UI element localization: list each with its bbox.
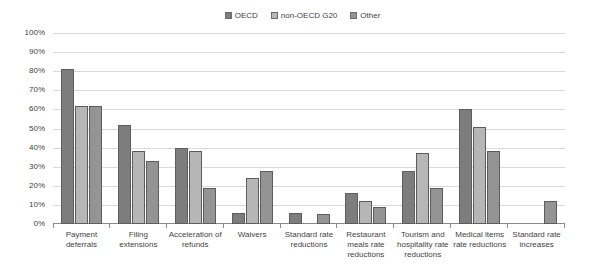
bar[interactable]: [75, 106, 88, 224]
chart-legend: OECDnon-OECD G20Other: [0, 11, 605, 20]
x-axis-category-label: Tourism and hospitality rate reductions: [394, 230, 451, 260]
bar[interactable]: [544, 201, 557, 224]
bar[interactable]: [473, 127, 486, 224]
bar[interactable]: [260, 171, 273, 224]
bar[interactable]: [132, 151, 145, 224]
y-axis-tick-label: 100%: [25, 29, 45, 37]
legend-label: non-OECD G20: [281, 11, 337, 20]
y-axis-labels: 100%90%80%70%60%50%40%30%20%10%0%: [0, 33, 50, 224]
bar[interactable]: [232, 213, 245, 224]
legend-entry-oecd[interactable]: OECD: [225, 11, 258, 20]
bar[interactable]: [402, 171, 415, 224]
bar-group: [451, 33, 508, 224]
y-axis-tick-label: 90%: [29, 48, 45, 56]
legend-swatch-icon: [350, 12, 357, 19]
legend-swatch-icon: [225, 12, 232, 19]
bar-group: [167, 33, 224, 224]
legend-entry-non-oecd-g20[interactable]: non-OECD G20: [271, 11, 337, 20]
x-axis-tick: [394, 224, 451, 228]
x-axis-category-label: Acceleration of refunds: [167, 230, 224, 260]
x-axis-category-label: Standard rate reductions: [281, 230, 338, 260]
bar-groups: [53, 33, 565, 224]
x-axis-tick: [53, 224, 110, 228]
y-axis-tick-label: 50%: [29, 125, 45, 133]
bar[interactable]: [359, 201, 372, 224]
bar[interactable]: [459, 109, 472, 224]
y-axis-tick-label: 20%: [29, 182, 45, 190]
bar[interactable]: [345, 193, 358, 224]
bar-group: [508, 33, 565, 224]
x-axis-tick: [508, 224, 565, 228]
bar[interactable]: [487, 151, 500, 224]
y-axis-tick-label: 80%: [29, 67, 45, 75]
bar[interactable]: [289, 213, 302, 224]
legend-swatch-icon: [271, 12, 278, 19]
bar[interactable]: [146, 161, 159, 224]
x-axis-tick: [281, 224, 338, 228]
bar[interactable]: [246, 178, 259, 224]
bar-group: [337, 33, 394, 224]
bar[interactable]: [373, 207, 386, 224]
y-axis-tick-label: 30%: [29, 163, 45, 171]
x-axis-category-label: Payment deferrals: [53, 230, 110, 260]
x-axis-category-label: Standard rate increases: [508, 230, 565, 260]
x-axis-labels: Payment deferralsFiling extensionsAccele…: [53, 230, 565, 260]
bar-group: [53, 33, 110, 224]
x-axis-category-label: Medical items rate reductions: [451, 230, 508, 260]
bar[interactable]: [118, 125, 131, 224]
x-axis-tick: [167, 224, 224, 228]
bar[interactable]: [317, 214, 330, 224]
bar[interactable]: [189, 151, 202, 224]
x-axis-category-label: Restaurant meals rate reductions: [337, 230, 394, 260]
bar-group: [281, 33, 338, 224]
y-axis-tick-label: 0%: [33, 220, 45, 228]
x-axis-tick: [110, 224, 167, 228]
x-axis-tick: [337, 224, 394, 228]
legend-label: OECD: [235, 11, 258, 20]
bar[interactable]: [89, 106, 102, 224]
y-axis-tick-label: 40%: [29, 144, 45, 152]
legend-label: Other: [360, 11, 380, 20]
bar[interactable]: [61, 69, 74, 224]
bar-chart: OECDnon-OECD G20Other 100%90%80%70%60%50…: [0, 0, 605, 278]
bar-group: [394, 33, 451, 224]
x-axis-ticks: [53, 224, 565, 228]
y-axis-tick-label: 10%: [29, 201, 45, 209]
x-axis-category-label: Waivers: [224, 230, 281, 260]
bar[interactable]: [203, 188, 216, 224]
y-axis-tick-label: 70%: [29, 86, 45, 94]
x-axis-tick: [224, 224, 281, 228]
bar[interactable]: [430, 188, 443, 224]
x-axis-category-label: Filing extensions: [110, 230, 167, 260]
legend-entry-other[interactable]: Other: [350, 11, 380, 20]
bar[interactable]: [175, 148, 188, 224]
bar-group: [110, 33, 167, 224]
bar-group: [224, 33, 281, 224]
x-axis-tick: [451, 224, 508, 228]
y-axis-tick-label: 60%: [29, 105, 45, 113]
bar[interactable]: [416, 153, 429, 224]
